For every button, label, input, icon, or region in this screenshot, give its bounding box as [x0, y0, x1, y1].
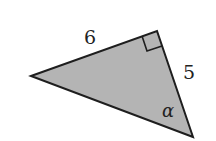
triangle-diagram: 6 5 α — [0, 0, 216, 141]
angle-label-alpha: α — [162, 100, 174, 121]
side-label-5: 5 — [183, 61, 195, 83]
side-label-6: 6 — [84, 26, 96, 48]
triangle-shape — [31, 31, 193, 137]
